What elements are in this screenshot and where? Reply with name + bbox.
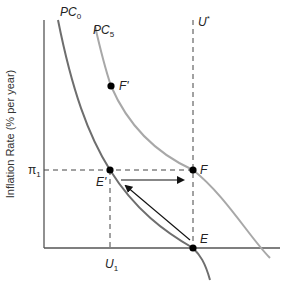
point-e <box>189 244 196 251</box>
label-f: F <box>200 163 208 177</box>
point-f <box>189 166 196 173</box>
pc5-label: PC5 <box>93 23 115 39</box>
arrow-e-to-e-prime <box>126 186 190 240</box>
pc0-curve <box>58 20 210 280</box>
label-f-prime: F' <box>119 79 129 93</box>
u1-label: U1 <box>105 257 119 273</box>
natural-rate-label: U* <box>198 14 210 29</box>
point-f-prime <box>107 82 114 89</box>
phillips-curve-diagram: PC0 PC5 U* F' E' F E π1 U1 Inflation Rat… <box>0 0 286 295</box>
pc0-label: PC0 <box>60 5 82 21</box>
point-e-prime <box>106 166 113 173</box>
label-e: E <box>200 232 209 246</box>
pc5-curve <box>95 26 270 258</box>
pi1-label: π1 <box>28 163 41 179</box>
y-axis-title: Inflation Rate (% per year) <box>4 70 16 198</box>
label-e-prime: E' <box>96 175 107 189</box>
